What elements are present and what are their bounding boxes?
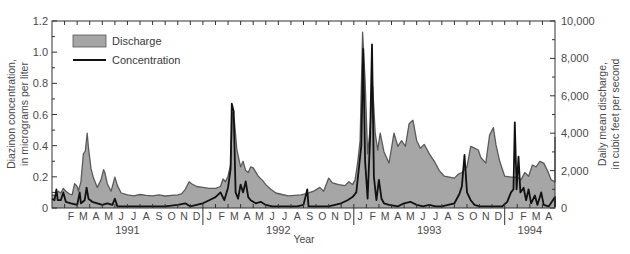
month-label: M	[381, 210, 390, 222]
year-label: 1992	[266, 224, 290, 236]
right-tick-label: 2,000	[561, 165, 589, 177]
month-label: A	[143, 210, 150, 222]
month-label: S	[155, 210, 162, 222]
month-label: M	[532, 210, 541, 222]
month-label: O	[469, 210, 477, 222]
month-label: O	[318, 210, 326, 222]
month-label: N	[180, 210, 188, 222]
diazinon-discharge-chart: 00.20.40.60.81.01.2 02,0004,0006,0008,00…	[0, 0, 630, 254]
month-label: F	[219, 210, 225, 222]
month-label: D	[193, 210, 201, 222]
month-label: J	[269, 210, 274, 222]
legend-concentration-label: Concentration	[112, 54, 181, 66]
month-label: M	[255, 210, 264, 222]
month-label: M	[230, 210, 239, 222]
month-label: F	[369, 210, 375, 222]
month-label: D	[344, 210, 352, 222]
month-label: J	[357, 210, 362, 222]
month-label: S	[457, 210, 464, 222]
left-axis-title-line2: in micrograms per liter	[18, 62, 30, 166]
month-label: A	[243, 210, 250, 222]
legend: Discharge Concentration	[73, 35, 181, 66]
month-label: A	[294, 210, 301, 222]
month-label: M	[406, 210, 415, 222]
month-label: J	[282, 210, 287, 222]
month-label: A	[93, 210, 100, 222]
right-tick-label: 10,000	[561, 15, 595, 27]
right-tick-label: 0	[561, 202, 567, 214]
month-label: F	[520, 210, 526, 222]
left-tick-label: 1.2	[33, 15, 48, 27]
month-label: A	[394, 210, 401, 222]
year-label: 1994	[518, 224, 542, 236]
left-tick-label: 0	[42, 202, 48, 214]
month-label: S	[306, 210, 313, 222]
month-label: J	[207, 210, 212, 222]
left-y-axis: 00.20.40.60.81.01.2	[33, 15, 57, 214]
left-tick-label: 1.0	[33, 46, 48, 58]
left-tick-label: 0.4	[33, 140, 48, 152]
month-label: J	[433, 210, 438, 222]
month-label: J	[420, 210, 425, 222]
year-label: 1991	[115, 224, 139, 236]
month-label: A	[445, 210, 452, 222]
left-tick-label: 0.6	[33, 109, 48, 121]
legend-discharge-label: Discharge	[112, 35, 162, 47]
month-label: O	[167, 210, 175, 222]
right-tick-label: 4,000	[561, 127, 589, 139]
month-label: N	[482, 210, 490, 222]
month-label: J	[508, 210, 513, 222]
month-label: A	[545, 210, 552, 222]
month-label: J	[119, 210, 124, 222]
month-label: M	[79, 210, 88, 222]
legend-discharge-swatch	[73, 35, 106, 47]
year-label: 1993	[417, 224, 441, 236]
month-label: J	[131, 210, 136, 222]
x-axis-title: Year	[293, 233, 315, 245]
left-tick-label: 0.8	[33, 77, 48, 89]
left-tick-label: 0.2	[33, 171, 48, 183]
right-axis-title-line1: Daily mean discharge,	[596, 62, 608, 166]
right-y-axis: 02,0004,0006,0008,00010,000	[550, 15, 595, 214]
left-axis-title-line1: Diazinon concentration,	[5, 59, 17, 169]
right-axis-title-line2: in cubic feet per second	[609, 58, 621, 169]
right-tick-label: 6,000	[561, 90, 589, 102]
month-label: F	[68, 210, 74, 222]
right-tick-label: 8,000	[561, 52, 589, 64]
month-label: M	[104, 210, 113, 222]
month-label: D	[495, 210, 503, 222]
month-label: N	[331, 210, 339, 222]
